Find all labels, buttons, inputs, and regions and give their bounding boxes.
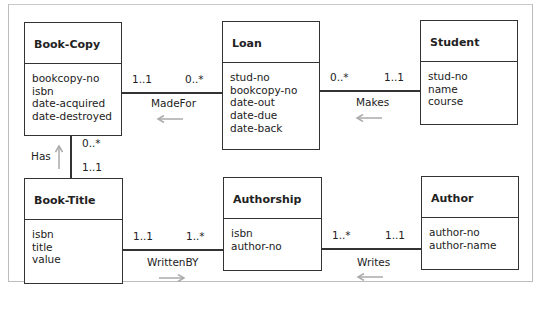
- arrow-up-icon: [55, 144, 63, 170]
- attribute: author-no: [429, 226, 518, 239]
- multiplicity: 1..1: [385, 229, 405, 241]
- multiplicity: 0..*: [185, 73, 204, 85]
- attribute: date-acquired: [32, 97, 121, 110]
- arrow-left-icon: [355, 114, 383, 122]
- attribute: course: [428, 95, 517, 108]
- multiplicity: 1..1: [384, 71, 404, 83]
- attribute: title: [32, 241, 122, 254]
- attribute: stud-no: [230, 71, 319, 84]
- relationship-label: Makes: [356, 96, 389, 108]
- entity-author: Author author-no author-name: [421, 176, 519, 270]
- attribute: isbn: [231, 227, 321, 240]
- arrow-left-icon: [156, 115, 184, 123]
- relationship-line-makes: [320, 90, 420, 92]
- relationship-label: WrittenBY: [147, 256, 199, 268]
- entity-title: Student: [421, 21, 517, 62]
- attribute: date-destroyed: [32, 110, 121, 123]
- attribute: name: [428, 83, 517, 96]
- attribute: author-no: [231, 240, 321, 253]
- relationship-line-has: [70, 136, 72, 178]
- multiplicity: 1..*: [332, 229, 351, 241]
- relationship-line-writes: [322, 248, 421, 250]
- attribute: stud-no: [428, 70, 517, 83]
- attribute: bookcopy-no: [32, 72, 121, 85]
- entity-student: Student stud-no name course: [420, 20, 518, 125]
- arrow-left-icon: [356, 273, 384, 281]
- relationship-label: Has: [31, 150, 51, 162]
- multiplicity: 1..*: [186, 230, 205, 242]
- entity-authorship: Authorship isbn author-no: [223, 177, 322, 271]
- relationship-line-madefor: [122, 92, 222, 94]
- entity-title: Author: [422, 177, 518, 218]
- entity-title: Loan: [223, 22, 319, 63]
- attribute: value: [32, 253, 122, 266]
- entity-title: Authorship: [224, 178, 321, 219]
- multiplicity: 1..1: [133, 230, 153, 242]
- arrow-right-icon: [158, 274, 186, 282]
- attribute: bookcopy-no: [230, 84, 319, 97]
- entity-title: Book-Copy: [25, 23, 121, 64]
- multiplicity: 0..*: [82, 137, 101, 149]
- attribute: date-out: [230, 96, 319, 109]
- entity-book-title: Book-Title isbn title value: [24, 178, 123, 284]
- multiplicity: 1..1: [132, 73, 152, 85]
- attribute: isbn: [32, 85, 121, 98]
- multiplicity: 0..*: [330, 71, 349, 83]
- attribute: isbn: [32, 228, 122, 241]
- multiplicity: 1..1: [82, 161, 102, 173]
- attribute: author-name: [429, 239, 518, 252]
- relationship-label: MadeFor: [151, 97, 196, 109]
- attribute: date-back: [230, 122, 319, 135]
- entity-title: Book-Title: [25, 179, 122, 220]
- relationship-line-writtenby: [123, 249, 223, 251]
- attribute: date-due: [230, 109, 319, 122]
- entity-loan: Loan stud-no bookcopy-no date-out date-d…: [222, 21, 320, 150]
- relationship-label: Writes: [357, 256, 390, 268]
- entity-book-copy: Book-Copy bookcopy-no isbn date-acquired…: [24, 22, 122, 136]
